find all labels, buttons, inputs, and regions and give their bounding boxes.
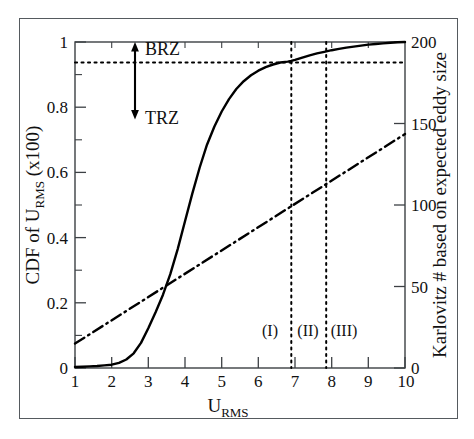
- y-left-tick-label: 0.6: [47, 163, 68, 182]
- y-right-tick-label: 200: [411, 33, 437, 52]
- x-axis-title-sub: RMS: [221, 405, 248, 420]
- region-label-3: (III): [331, 322, 358, 340]
- x-tick-label: 2: [107, 372, 116, 391]
- brz-trz-double-arrow: [131, 42, 139, 120]
- svg-text:URMS: URMS: [207, 395, 248, 420]
- svg-text:CDF of URMS (x100): CDF of URMS (x100): [22, 126, 47, 285]
- x-tick-label: 7: [291, 372, 300, 391]
- chart-canvas: 1 2 3 4 5 6 7 8 9 10 0 0.2 0.4 0.6 0.8 1…: [0, 0, 474, 439]
- x-tick-label: 9: [364, 372, 373, 391]
- y-right-axis-ticks: [394, 42, 405, 368]
- x-axis-ticks: [75, 357, 405, 368]
- trz-label: TRZ: [145, 108, 179, 128]
- x-tick-label: 6: [254, 372, 263, 391]
- karlovitz-line: [75, 134, 405, 344]
- y-left-axis-title-part2: (x100): [22, 126, 44, 181]
- y-left-axis-title-sub: RMS: [32, 181, 47, 208]
- x-axis-title-main: U: [207, 395, 221, 416]
- brz-label: BRZ: [145, 39, 180, 59]
- plot-frame: [75, 42, 405, 368]
- x-tick-label: 4: [181, 372, 190, 391]
- y-left-tick-label: 0.4: [47, 229, 69, 248]
- y-left-tick-label: 1: [60, 33, 69, 52]
- region-label-1: (I): [262, 322, 278, 340]
- y-left-axis-title-part1: CDF of U: [22, 208, 43, 284]
- y-right-axis-title-text: Karlovitz # based on expected eddy size: [429, 52, 450, 358]
- y-left-tick-label: 0.8: [47, 98, 68, 117]
- x-axis-title: URMS: [207, 395, 248, 420]
- y-left-tick-label: 0.2: [47, 294, 68, 313]
- x-tick-label: 1: [71, 372, 80, 391]
- y-right-tick-label: 0: [411, 359, 420, 378]
- figure-root: 1 2 3 4 5 6 7 8 9 10 0 0.2 0.4 0.6 0.8 1…: [0, 0, 474, 439]
- x-tick-label: 3: [144, 372, 153, 391]
- y-left-axis-title: CDF of URMS (x100): [22, 126, 47, 285]
- y-right-axis-title: Karlovitz # based on expected eddy size: [429, 52, 450, 358]
- cdf-curve: [75, 42, 405, 367]
- region-label-2: (II): [297, 322, 318, 340]
- y-right-tick-label: 50: [411, 278, 428, 297]
- x-tick-labels: 1 2 3 4 5 6 7 8 9 10: [71, 372, 415, 391]
- x-tick-label: 8: [327, 372, 336, 391]
- x-tick-label: 5: [217, 372, 226, 391]
- reference-lines: [75, 42, 405, 368]
- y-left-axis-minor-ticks: [75, 75, 82, 336]
- y-left-tick-labels: 0 0.2 0.4 0.6 0.8 1: [47, 33, 69, 378]
- y-left-tick-label: 0: [60, 359, 69, 378]
